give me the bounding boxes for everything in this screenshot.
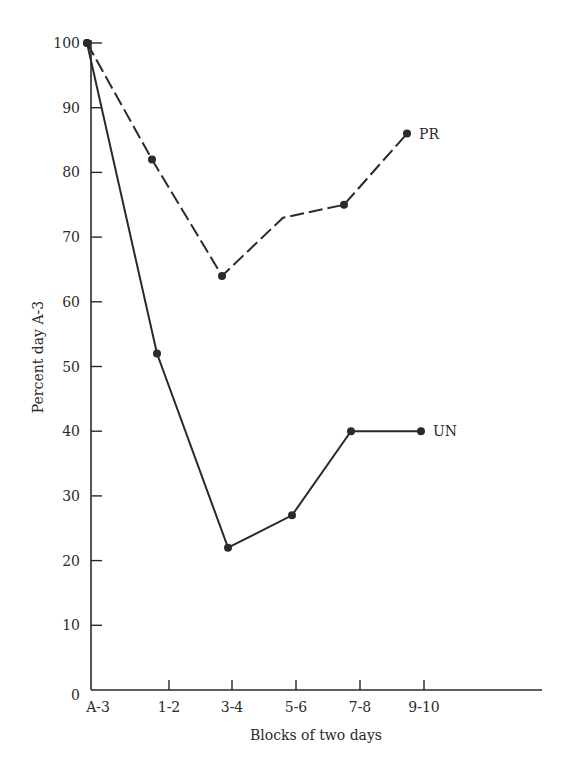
series-line-un <box>87 43 421 548</box>
x-tick-label: 1-2 <box>158 699 181 715</box>
x-tick-label: 7-8 <box>349 699 372 715</box>
y-tick-label: 40 <box>62 423 80 439</box>
x-tick-label: A-3 <box>85 699 110 715</box>
data-point-marker <box>224 544 232 552</box>
x-axis-title: Blocks of two days <box>250 727 382 743</box>
x-axis: A-31-23-45-67-89-10 <box>85 680 542 715</box>
y-tick-label: 90 <box>62 100 80 116</box>
y-tick-label: 30 <box>62 488 80 504</box>
plot-area: PRUN <box>83 39 457 552</box>
data-point-marker <box>148 155 156 163</box>
data-point-marker <box>288 511 296 519</box>
data-point-marker <box>153 350 161 358</box>
x-tick-label: 3-4 <box>221 699 244 715</box>
y-axis-title: Percent day A-3 <box>30 301 46 413</box>
y-tick-label: 20 <box>62 553 80 569</box>
data-point-marker <box>218 272 226 280</box>
y-tick-label: 60 <box>62 294 80 310</box>
series-label-un: UN <box>433 423 457 439</box>
y-tick-label: 80 <box>62 164 80 180</box>
y-axis: 0102030405060708090100 <box>53 35 102 703</box>
x-axis-ticks: A-31-23-45-67-89-10 <box>85 680 440 715</box>
data-point-marker <box>403 130 411 138</box>
data-point-marker <box>347 427 355 435</box>
x-tick-label: 9-10 <box>408 699 439 715</box>
y-tick-label: 0 <box>71 687 80 703</box>
series-un: UN <box>83 39 457 552</box>
y-tick-label: 70 <box>62 229 80 245</box>
y-tick-label: 100 <box>53 35 80 51</box>
y-axis-ticks: 0102030405060708090100 <box>53 35 102 703</box>
data-point-marker <box>83 39 91 47</box>
data-point-marker <box>340 201 348 209</box>
line-chart: 0102030405060708090100 A-31-23-45-67-89-… <box>0 0 567 773</box>
y-tick-label: 10 <box>62 617 80 633</box>
series-label-pr: PR <box>419 126 439 142</box>
y-tick-label: 50 <box>62 359 80 375</box>
x-tick-label: 5-6 <box>285 699 308 715</box>
series-line-pr <box>87 43 407 276</box>
series-pr: PR <box>83 39 439 280</box>
data-point-marker <box>417 427 425 435</box>
